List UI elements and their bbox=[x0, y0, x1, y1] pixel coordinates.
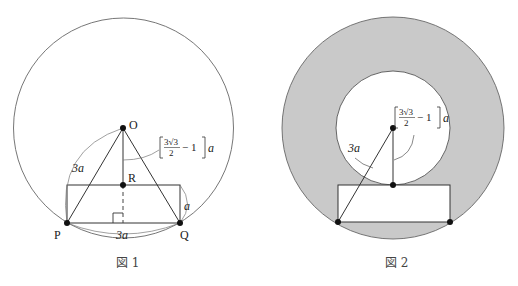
figure-2: 3a 3√3 2 − 1 a 図 2 bbox=[282, 17, 504, 270]
svg-text:a: a bbox=[443, 111, 449, 125]
label-pq-length: 3a bbox=[115, 228, 128, 242]
fig1-rectangle bbox=[67, 185, 180, 223]
svg-text:2: 2 bbox=[404, 118, 409, 128]
label-r: R bbox=[128, 171, 136, 185]
label-p: P bbox=[54, 228, 61, 242]
fig2-point-right bbox=[447, 219, 453, 225]
point-q bbox=[177, 220, 183, 226]
fig1-segment-op bbox=[67, 128, 123, 223]
point-p bbox=[64, 220, 70, 226]
fig2-tangent-point bbox=[390, 182, 396, 188]
svg-text:2: 2 bbox=[169, 148, 174, 158]
figures-canvas: O R P Q 3a 3a a 3√3 2 − 1 a 図 1 bbox=[0, 0, 518, 286]
right-angle-mark bbox=[113, 213, 123, 223]
label-q: Q bbox=[180, 228, 189, 242]
point-r bbox=[120, 182, 126, 188]
caption-figure-2: 図 2 bbox=[385, 256, 408, 270]
label-or-length: 3√3 2 − 1 a bbox=[160, 137, 214, 158]
caption-figure-1: 図 1 bbox=[116, 256, 139, 270]
svg-text:− 1: − 1 bbox=[182, 141, 196, 153]
svg-text:3√3: 3√3 bbox=[399, 107, 413, 117]
fig2-label-slant: 3a bbox=[347, 141, 360, 155]
point-o bbox=[120, 125, 126, 131]
svg-text:3√3: 3√3 bbox=[164, 137, 178, 147]
svg-text:− 1: − 1 bbox=[417, 111, 431, 123]
fig2-rectangle bbox=[338, 185, 450, 222]
svg-text:a: a bbox=[208, 141, 214, 155]
figure-1: O R P Q 3a 3a a 3√3 2 − 1 a 図 1 bbox=[14, 18, 234, 270]
label-op-length: 3a bbox=[71, 161, 84, 175]
label-rect-height: a bbox=[184, 199, 190, 213]
label-o: O bbox=[129, 118, 138, 132]
fig2-point-left bbox=[335, 219, 341, 225]
